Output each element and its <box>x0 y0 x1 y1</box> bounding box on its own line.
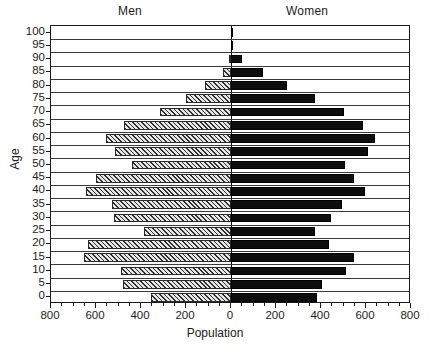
x-tick-label: 800 <box>390 309 430 321</box>
x-tick-mark <box>275 303 276 308</box>
x-tick-mark <box>286 303 287 306</box>
y-tick-mark <box>46 230 50 231</box>
x-tick-mark <box>163 303 164 306</box>
y-tick-mark <box>46 270 50 271</box>
grid-row-line <box>51 185 409 186</box>
bar-men-age-5 <box>123 280 231 289</box>
y-tick-mark <box>46 45 50 46</box>
bar-women-age-50 <box>231 161 345 170</box>
bar-women-age-0 <box>231 293 317 302</box>
x-tick-mark <box>174 303 175 306</box>
grid-row-line <box>51 39 409 40</box>
bar-men-age-80 <box>205 81 231 90</box>
bar-women-age-65 <box>231 121 363 130</box>
x-tick-mark <box>185 303 186 308</box>
y-tick-mark <box>46 111 50 112</box>
y-tick-label: 40 <box>17 183 45 195</box>
x-tick-mark <box>84 303 85 306</box>
y-tick-mark <box>46 138 50 139</box>
y-tick-mark <box>46 85 50 86</box>
grid-row-line <box>51 52 409 53</box>
bar-women-age-10 <box>231 267 346 276</box>
x-tick-mark <box>320 303 321 308</box>
bar-men-age-45 <box>96 174 231 183</box>
y-tick-label: 55 <box>17 144 45 156</box>
bar-men-age-85 <box>223 68 231 77</box>
y-tick-mark <box>46 190 50 191</box>
y-tick-label: 15 <box>17 250 45 262</box>
x-tick-mark <box>230 303 231 308</box>
bar-men-age-35 <box>112 200 231 209</box>
x-tick-label: 400 <box>120 309 160 321</box>
bar-men-age-20 <box>88 240 231 249</box>
x-tick-label: 200 <box>255 309 295 321</box>
grid-row-line <box>51 291 409 292</box>
y-tick-mark <box>46 32 50 33</box>
x-tick-mark <box>208 303 209 306</box>
y-tick-label: 100 <box>17 25 45 37</box>
bar-women-age-100 <box>231 28 233 37</box>
grid-row-line <box>51 225 409 226</box>
bar-women-age-5 <box>231 280 322 289</box>
x-tick-label: 0 <box>210 309 250 321</box>
grid-row-line <box>51 79 409 80</box>
bar-women-age-95 <box>231 41 233 50</box>
y-tick-label: 80 <box>17 78 45 90</box>
men-group-title: Men <box>118 4 142 18</box>
y-tick-label: 0 <box>17 289 45 301</box>
x-tick-mark <box>95 303 96 308</box>
bar-women-age-60 <box>231 134 375 143</box>
bar-men-age-40 <box>86 187 231 196</box>
y-tick-label: 85 <box>17 64 45 76</box>
x-tick-mark <box>219 303 220 306</box>
bar-women-age-30 <box>231 214 331 223</box>
x-tick-mark <box>376 303 377 306</box>
x-tick-mark <box>241 303 242 306</box>
bar-women-age-40 <box>231 187 365 196</box>
bar-women-age-35 <box>231 200 342 209</box>
y-tick-label: 90 <box>17 51 45 63</box>
grid-row-line <box>51 278 409 279</box>
x-tick-mark <box>129 303 130 306</box>
y-tick-mark <box>46 217 50 218</box>
x-tick-mark <box>343 303 344 306</box>
x-tick-mark <box>309 303 310 306</box>
bar-men-age-55 <box>115 147 231 156</box>
grid-row-line <box>51 92 409 93</box>
y-tick-mark <box>46 204 50 205</box>
y-tick-mark <box>46 98 50 99</box>
women-group-title: Women <box>286 4 328 18</box>
x-tick-mark <box>253 303 254 306</box>
y-tick-mark <box>46 151 50 152</box>
y-tick-mark <box>46 283 50 284</box>
y-tick-mark <box>46 243 50 244</box>
grid-row-line <box>51 198 409 199</box>
grid-row-line <box>51 238 409 239</box>
bar-women-age-25 <box>231 227 315 236</box>
bar-men-age-15 <box>84 253 231 262</box>
grid-row-line <box>51 158 409 159</box>
population-pyramid-figure: Men Women Age Population 800600400200020… <box>0 0 430 350</box>
bar-men-age-70 <box>160 108 231 117</box>
y-tick-mark <box>46 124 50 125</box>
x-tick-label: 600 <box>75 309 115 321</box>
grid-row-line <box>51 211 409 212</box>
bar-men-age-25 <box>144 227 231 236</box>
y-tick-label: 70 <box>17 104 45 116</box>
x-tick-mark <box>410 303 411 308</box>
x-tick-mark <box>298 303 299 306</box>
bar-women-age-85 <box>231 68 263 77</box>
bar-women-age-20 <box>231 240 329 249</box>
y-tick-label: 45 <box>17 170 45 182</box>
bar-men-age-30 <box>114 214 231 223</box>
y-tick-label: 5 <box>17 276 45 288</box>
x-tick-mark <box>399 303 400 306</box>
y-tick-label: 75 <box>17 91 45 103</box>
y-tick-mark <box>46 257 50 258</box>
bar-women-age-80 <box>231 81 287 90</box>
y-tick-mark <box>46 177 50 178</box>
grid-row-line <box>51 105 409 106</box>
bar-women-age-55 <box>231 147 368 156</box>
grid-row-line <box>51 132 409 133</box>
x-tick-mark <box>61 303 62 306</box>
